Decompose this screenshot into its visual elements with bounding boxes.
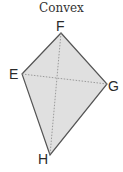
vertex-label-g: G <box>108 78 119 94</box>
vertex-label-h: H <box>38 151 48 167</box>
quadrilateral-efgh <box>22 33 107 155</box>
vertex-label-f: F <box>56 18 65 34</box>
vertex-label-e: E <box>9 66 18 82</box>
convex-quadrilateral-diagram: F E G H <box>0 0 123 172</box>
